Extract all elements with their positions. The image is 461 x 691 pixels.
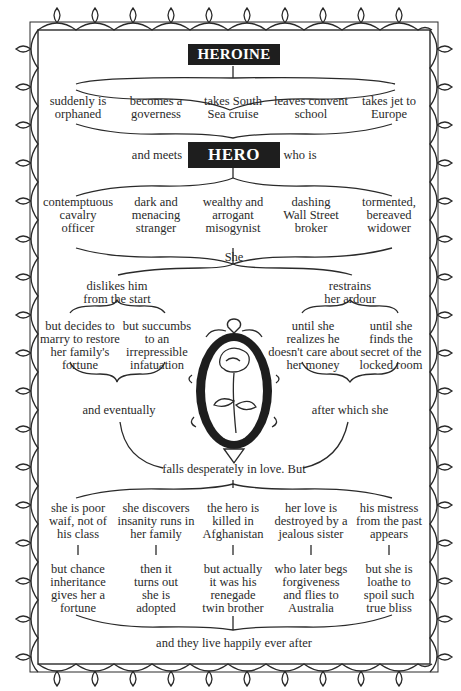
hero-option-1: contemptuous cavalry officer [43, 196, 113, 235]
obstacle-resolution-4: who later begs forgiveness and flies to … [275, 563, 348, 615]
she-label: She [225, 251, 244, 264]
rose-in-oval-frame-icon [188, 317, 280, 465]
heroine-option-2: becomes a governess [130, 95, 182, 121]
heroine-option-4: leaves convent school [274, 95, 348, 121]
ending-label: and they live happily ever after [156, 637, 312, 650]
left-join-label: and eventually [82, 404, 155, 417]
hero-option-2: dark and menacing stranger [132, 196, 181, 235]
hero-option-4: dashing Wall Street broker [283, 196, 339, 235]
right-option-2: until she finds the secret of the locked… [360, 320, 423, 372]
falls-in-love-label: falls desperately in love. But [162, 463, 305, 476]
right-branch-label: restrains her ardour [324, 280, 376, 306]
right-option-1: until she realizes he doesn't care about… [268, 320, 358, 372]
obstacle-problem-2: she discovers insanity runs in her famil… [117, 502, 194, 541]
and-meets-label: and meets [132, 149, 182, 162]
heroine-title-box: HEROINE [188, 44, 280, 65]
obstacle-resolution-1: but chance inheritance gives her a fortu… [50, 563, 106, 615]
obstacle-problem-4: her love is destroyed by a jealous siste… [275, 502, 348, 541]
hero-option-5: tormented, bereaved widower [362, 196, 416, 235]
heroine-option-3: takes South Sea cruise [204, 95, 262, 121]
heroine-option-1: suddenly is orphaned [50, 95, 107, 121]
left-option-1: but decides to marry to restore her fami… [40, 320, 120, 372]
obstacle-resolution-3: but actually it was his renegade twin br… [202, 563, 263, 615]
obstacle-problem-1: she is poor waif, not of his class [49, 502, 107, 541]
left-option-2: but succumbs to an irrepressible infatua… [123, 320, 191, 372]
obstacle-resolution-5: but she is loathe to spoil such true bli… [364, 563, 414, 615]
obstacle-resolution-2: then it turns out she is adopted [134, 563, 178, 615]
who-is-label: who is [284, 149, 317, 162]
left-branch-label: dislikes him from the start [83, 280, 150, 306]
hero-title-box: HERO [188, 142, 280, 168]
hero-option-3: wealthy and arrogant misogynist [203, 196, 264, 235]
heroine-option-5: takes jet to Europe [362, 95, 416, 121]
right-join-label: after which she [312, 404, 388, 417]
obstacle-problem-5: his mistress from the past appears [356, 502, 422, 541]
obstacle-problem-3: the hero is killed in Afghanistan [202, 502, 263, 541]
